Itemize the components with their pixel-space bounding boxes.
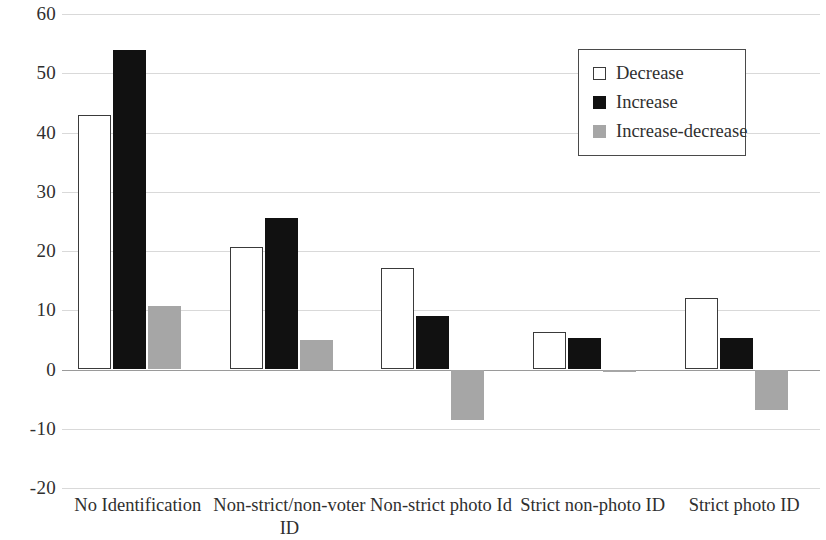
y-axis-tick-label: 30: [8, 182, 56, 201]
bar-increase-decrease: [148, 306, 181, 370]
bar-increase: [568, 338, 601, 369]
y-axis: 6050403020100-10-20: [0, 14, 56, 488]
legend-swatch-increase-icon: [593, 96, 606, 109]
legend-label: Increase: [616, 93, 678, 112]
gridline: [62, 488, 820, 489]
bar-increase: [720, 338, 753, 369]
y-axis-tick-label: -10: [8, 419, 56, 438]
bar-increase-decrease: [451, 370, 484, 420]
bar-increase-decrease: [755, 370, 788, 410]
bar-increase: [113, 50, 146, 370]
y-axis-tick-label: 10: [8, 300, 56, 319]
chart-legend: DecreaseIncreaseIncrease-decrease: [578, 49, 746, 156]
bar-decrease: [685, 298, 718, 369]
bar-decrease: [381, 268, 414, 370]
legend-swatch-decrease-icon: [593, 67, 606, 80]
bar-increase-decrease: [300, 340, 333, 370]
bar-chart: 6050403020100-10-20 No IdentificationNon…: [0, 0, 826, 540]
legend-item[interactable]: Increase-decrease: [593, 117, 745, 146]
x-axis-category-labels: No IdentificationNon-strict/non-voter ID…: [62, 494, 820, 540]
bar-decrease: [230, 247, 263, 369]
bar-group: [62, 14, 214, 488]
y-axis-tick-label: 40: [8, 123, 56, 142]
bar-decrease: [78, 115, 111, 370]
y-axis-tick-label: 20: [8, 241, 56, 260]
legend-swatch-increase-decrease-icon: [593, 125, 606, 138]
legend-item[interactable]: Decrease: [593, 59, 745, 88]
bar-increase: [416, 316, 449, 369]
y-axis-tick-label: 60: [8, 4, 56, 23]
bar-group: [214, 14, 366, 488]
bar-group: [365, 14, 517, 488]
x-axis-label: No Identification: [56, 494, 220, 517]
x-axis-label: Non-strict photo Id: [359, 494, 523, 517]
bar-increase-decrease: [603, 370, 636, 372]
bar-decrease: [533, 332, 566, 369]
y-axis-tick-label: -20: [8, 478, 56, 497]
legend-label: Decrease: [616, 64, 684, 83]
y-axis-tick-label: 0: [8, 360, 56, 379]
x-axis-label: Strict photo ID: [662, 494, 826, 517]
x-axis-label: Non-strict/non-voter ID: [208, 494, 372, 540]
legend-item[interactable]: Increase: [593, 88, 745, 117]
x-axis-label: Strict non-photo ID: [511, 494, 675, 517]
y-axis-tick-label: 50: [8, 63, 56, 82]
bar-increase: [265, 218, 298, 370]
legend-label: Increase-decrease: [616, 122, 747, 141]
